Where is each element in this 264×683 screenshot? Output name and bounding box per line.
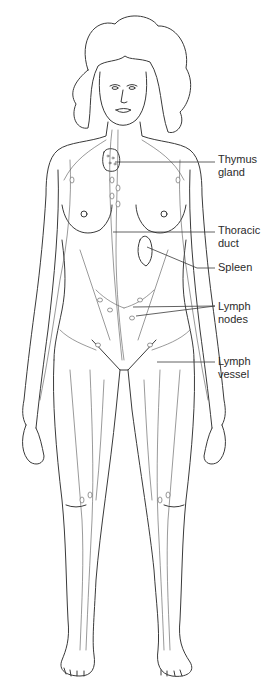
legs-outline xyxy=(53,360,194,676)
lymph-vessel-network xyxy=(40,130,208,650)
left-hand xyxy=(23,425,44,464)
hair-outline xyxy=(73,16,191,133)
label-thoracic-duct: Thoracic duct xyxy=(218,224,260,250)
label-line: gland xyxy=(218,166,257,179)
label-lymph-nodes: Lymph nodes xyxy=(218,300,251,326)
label-spleen: Spleen xyxy=(218,261,252,274)
label-line: Lymph xyxy=(218,355,251,368)
thymus-gland-shape xyxy=(103,149,120,172)
spleen-shape xyxy=(138,236,152,266)
lymphatic-system-illustration xyxy=(0,0,264,683)
label-line: nodes xyxy=(218,313,251,326)
label-line: Thymus xyxy=(218,153,257,166)
label-line: vessel xyxy=(218,368,251,381)
lymph-node-cluster xyxy=(70,177,180,503)
label-line: Spleen xyxy=(218,261,252,274)
label-line: duct xyxy=(218,237,260,250)
label-thymus-gland: Thymus gland xyxy=(218,153,257,179)
lymph-nodes-leader-line xyxy=(133,306,215,307)
label-line: Lymph xyxy=(218,300,251,313)
label-lymph-vessel: Lymph vessel xyxy=(218,355,251,381)
label-line: Thoracic xyxy=(218,224,260,237)
face-outline xyxy=(99,72,146,125)
right-hand xyxy=(204,425,225,464)
breast-outline xyxy=(62,205,186,233)
spleen-leader-line xyxy=(147,247,215,268)
